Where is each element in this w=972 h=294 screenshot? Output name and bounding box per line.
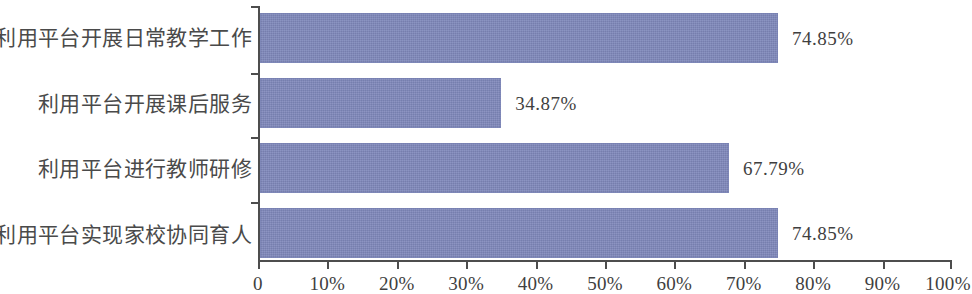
bar-value-0: 74.85% [792,29,854,48]
x-tick-label-60: 60% [657,274,693,293]
bar-value-2: 67.79% [743,159,805,178]
category-label-2: 利用平台进行教师研修 [38,159,252,180]
category-label-0: 利用平台开展日常教学工作 [0,28,252,49]
x-tick-label-100: 100% [925,274,971,293]
x-tick-label-80: 80% [795,274,831,293]
y-axis-tick-2 [251,137,259,139]
bar-0 [260,13,778,63]
x-tick-label-70: 70% [726,274,762,293]
x-tick-label-50: 50% [587,274,623,293]
bar-1 [260,78,501,128]
x-axis-tick-10 [327,261,329,269]
x-tick-label-20: 20% [379,274,415,293]
category-axis-labels: 利用平台开展日常教学工作 利用平台开展课后服务 利用平台进行教师研修 利用平台实… [0,0,256,262]
x-tick-label-40: 40% [518,274,554,293]
y-axis-tick-top [251,6,259,8]
x-tick-label-30: 30% [448,274,484,293]
x-axis-tick-70 [744,261,746,269]
horizontal-bar-chart: 利用平台开展日常教学工作 利用平台开展课后服务 利用平台进行教师研修 利用平台实… [0,0,972,294]
x-axis-tick-100 [950,261,952,269]
bar-2 [260,143,729,193]
x-tick-label-10: 10% [310,274,346,293]
category-label-3: 利用平台实现家校协同育人 [0,225,252,246]
category-label-1: 利用平台开展课后服务 [38,94,252,115]
x-axis-tick-30 [466,261,468,269]
y-axis-tick-1 [251,73,259,75]
x-axis-tick-40 [536,261,538,269]
x-axis-tick-80 [813,261,815,269]
plot-area: 74.85% 34.87% 67.79% 74.85% 0 10% 20% 30… [258,6,952,262]
x-axis-tick-50 [605,261,607,269]
bar-value-3: 74.85% [792,224,854,243]
x-axis-tick-60 [674,261,676,269]
x-tick-label-0: 0 [253,274,263,293]
bar-3 [260,208,778,258]
y-axis-tick-3 [251,202,259,204]
x-axis-tick-20 [397,261,399,269]
x-axis-tick-90 [883,261,885,269]
x-tick-label-90: 90% [865,274,901,293]
bar-value-1: 34.87% [515,94,577,113]
x-axis-tick-0 [258,261,260,269]
